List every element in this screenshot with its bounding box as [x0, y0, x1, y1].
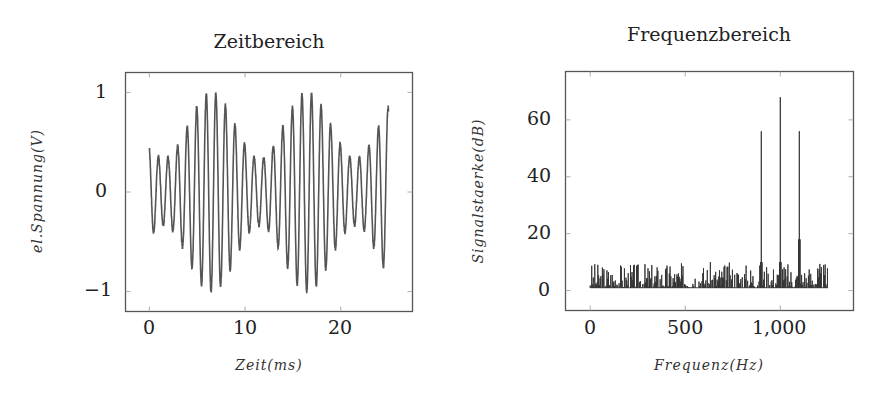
time-axes-frame — [126, 73, 413, 312]
plots-canvas — [0, 0, 879, 401]
frequency-spectrum-line — [590, 97, 828, 288]
time-signal-line — [149, 92, 388, 293]
time-domain-plot — [126, 73, 413, 312]
frequency-domain-plot — [566, 72, 854, 311]
time-tick-marks — [126, 73, 413, 312]
